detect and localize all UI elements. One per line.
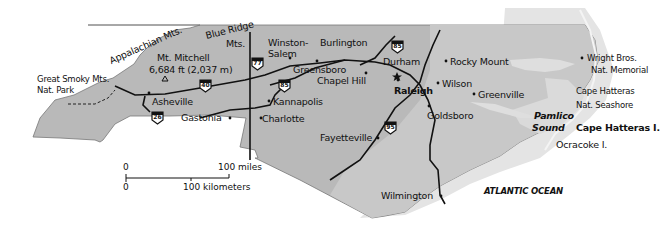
interstate-85-east-shield: 85 (391, 39, 404, 53)
label-great-smoky-park: Nat. Park (37, 85, 74, 95)
label-atlantic-ocean: ATLANTIC OCEAN (484, 186, 563, 196)
scale-km-label: 100 kilometers (183, 182, 251, 192)
label-wright-bros: Wright Bros. (587, 53, 637, 63)
interstate-95-shield: 95 (384, 120, 397, 134)
label-greenville: Greenville (478, 89, 524, 100)
label-blue-ridge-mts: Mts. (226, 38, 245, 49)
label-rocky-mount: Rocky Mount (450, 56, 509, 67)
interstate-40-shield: 40 (199, 78, 212, 92)
label-goldsboro: Goldsboro (427, 110, 473, 121)
label-durham: Durham (383, 56, 420, 67)
label-chapel-hill: Chapel Hill (317, 75, 366, 86)
scale-bar (126, 174, 229, 182)
label-wright-bros-memorial: Nat. Memorial (591, 65, 648, 75)
label-charlotte: Charlotte (262, 113, 304, 124)
interstate-77-shield: 77 (251, 56, 264, 70)
label-winston-salem-2: Salem (268, 48, 297, 59)
label-winston-salem: Winston- (268, 37, 308, 48)
label-burlington: Burlington (320, 37, 367, 48)
label-mt-mitchell-elevation: 6,684 ft (2,037 m) (149, 64, 232, 75)
scale-km-zero: 0 (123, 182, 129, 192)
label-raleigh: Raleigh (394, 85, 433, 96)
interstate-26-shield: 26 (151, 110, 164, 124)
label-asheville: Asheville (152, 96, 193, 107)
scale-miles-zero: 0 (123, 162, 129, 172)
label-mt-mitchell: Mt. Mitchell (157, 52, 210, 63)
label-kannapolis: Kannapolis (273, 96, 323, 107)
label-fayetteville: Fayetteville (320, 132, 372, 143)
label-wilson: Wilson (442, 78, 472, 89)
label-greensboro: Greensboro (293, 64, 346, 75)
label-gastonia: Gastonia (181, 112, 222, 123)
label-pamlico: Pamlico (534, 110, 574, 121)
scale-miles-label: 100 miles (218, 162, 262, 172)
label-cape-hatteras-ns: Cape Hatteras (576, 86, 635, 96)
interstate-85-west-shield: 85 (278, 78, 291, 92)
label-ocracoke: Ocracoke I. (556, 139, 607, 150)
label-great-smoky: Great Smoky Mts. (37, 74, 109, 84)
label-wilmington: Wilmington (381, 190, 433, 201)
label-cape-hatteras-island: Cape Hatteras I. (576, 122, 660, 133)
label-pamlico-sound: Sound (532, 122, 565, 133)
label-cape-hatteras-ns-2: Nat. Seashore (576, 100, 633, 110)
